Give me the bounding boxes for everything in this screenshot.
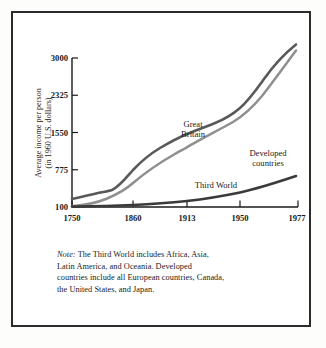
- note-line-4: the United States, and Japan.: [57, 285, 154, 294]
- note-line-3: countries include all European countries…: [57, 273, 224, 282]
- note-line-1: The Third World includes Africa, Asia,: [76, 250, 209, 259]
- note-line-2: Latin America, and Oceania. Developed: [57, 262, 192, 271]
- note-lead: Note:: [57, 250, 76, 259]
- figure-container: 3000 2325 1550 775 100 1750 1860 1913 19…: [0, 0, 326, 348]
- figure-note: Note: The Third World includes Africa, A…: [57, 249, 297, 295]
